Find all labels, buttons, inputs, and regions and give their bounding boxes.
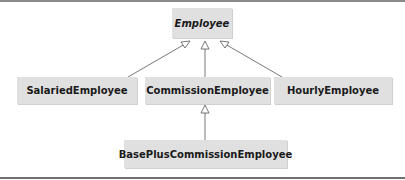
class-name: CommissionEmployee (146, 85, 269, 96)
bottom-rule (0, 177, 405, 179)
hollow-triangle-icon (201, 41, 209, 49)
class-name: HourlyEmployee (287, 85, 379, 96)
class-baseplus-commission-employee: BasePlusCommissionEmployee (124, 140, 287, 168)
class-name: Employee (175, 18, 230, 29)
class-commission-employee: CommissionEmployee (145, 77, 270, 104)
class-employee: Employee (172, 8, 232, 38)
class-hourly-employee: HourlyEmployee (274, 77, 392, 104)
hollow-triangle-icon (181, 41, 190, 48)
hollow-triangle-icon (220, 41, 229, 48)
class-name: BasePlusCommissionEmployee (119, 149, 293, 160)
class-name: SalariedEmployee (26, 85, 127, 96)
arrow-salaried-to-employee (128, 44, 185, 77)
hollow-triangle-icon (201, 105, 209, 113)
class-salaried-employee: SalariedEmployee (17, 77, 137, 104)
